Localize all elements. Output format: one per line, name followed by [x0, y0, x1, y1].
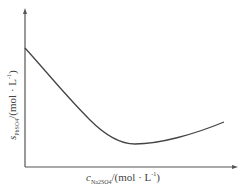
y-unit: /(mol · L [6, 79, 18, 119]
x-close: ) [156, 171, 160, 183]
x-axis [25, 165, 238, 169]
x-subscript: Na2SO4 [91, 179, 112, 185]
y-exp: -1 [6, 74, 12, 79]
chart-canvas [0, 0, 240, 187]
y-symbol: s [6, 136, 18, 140]
y-close: ) [6, 70, 18, 74]
solubility-curve [25, 48, 224, 144]
x-axis-label: cNa2SO4/(mol · L-1) [86, 171, 160, 185]
x-unit: /(mol · L [112, 171, 152, 183]
y-axis [23, 8, 27, 167]
y-subscript: PbSO4 [14, 119, 20, 136]
x-axis-arrow-icon [232, 165, 238, 169]
y-axis-arrow-icon [23, 8, 27, 14]
y-axis-label: sPbSO4/(mol · L-1) [6, 70, 20, 140]
